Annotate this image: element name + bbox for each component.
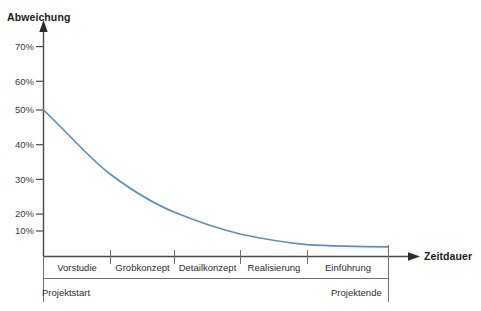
phase-label-realisierung: Realisierung [240,262,308,273]
chart-canvas: Abweichung Zeitdauer 70% 60% 50% 40% 30%… [0,0,481,311]
phase-label-grobkonzept: Grobkonzept [110,262,175,273]
phase-label-detailkonzept: Detailkonzept [174,262,241,273]
marker-label-projektende: Projektende [331,287,382,298]
x-axis-arrow [408,252,420,260]
y-axis-arrow [39,20,47,32]
phase-label-vorstudie: Vorstudie [43,262,111,273]
marker-label-projektstart: Projektstart [42,287,90,298]
y-tick-marks [36,47,44,231]
phase-label-einfuehrung: Einführung [307,262,389,273]
deviation-curve [44,110,389,247]
